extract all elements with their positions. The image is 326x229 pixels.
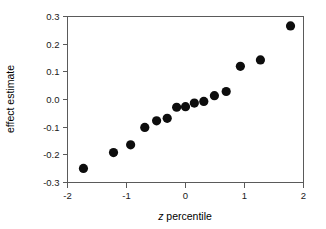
data-point — [222, 87, 231, 96]
x-tick-label: 0 — [183, 190, 188, 201]
data-point — [109, 148, 118, 157]
plot-canvas: -0.3-0.2-0.10.00.10.20.3 -2-1012 z perce… — [0, 0, 326, 229]
y-tick-label: -0.3 — [43, 177, 59, 188]
data-point — [126, 140, 135, 149]
y-tick-label: 0.3 — [46, 11, 59, 22]
data-point — [152, 116, 161, 125]
data-point — [181, 102, 190, 111]
data-point — [199, 97, 208, 106]
data-point — [256, 55, 265, 64]
figure-background — [0, 0, 326, 229]
y-tick-label: 0.2 — [46, 39, 59, 50]
x-tick-label: -1 — [122, 190, 130, 201]
x-tick-label: -2 — [63, 190, 71, 201]
y-tick-label: -0.2 — [43, 149, 59, 160]
y-tick-label: -0.1 — [43, 122, 59, 133]
y-axis-title: effect estimate — [4, 65, 16, 133]
data-point — [163, 114, 172, 123]
data-point — [210, 91, 219, 100]
data-point — [190, 99, 199, 108]
qq-plot-figure: -0.3-0.2-0.10.00.10.20.3 -2-1012 z perce… — [0, 0, 326, 229]
x-tick-label: 2 — [301, 190, 306, 201]
x-axis-title-rest: percentile — [163, 210, 212, 222]
x-tick-label: 1 — [242, 190, 247, 201]
y-tick-label: 0.0 — [46, 94, 59, 105]
data-point — [286, 21, 295, 30]
data-point — [236, 62, 245, 71]
x-axis-title: z percentile — [157, 210, 212, 222]
data-point — [79, 164, 88, 173]
data-point — [172, 103, 181, 112]
data-point — [140, 123, 149, 132]
y-tick-label: 0.1 — [46, 66, 59, 77]
